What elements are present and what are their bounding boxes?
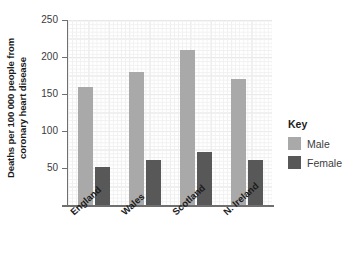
plot-area (68, 20, 272, 205)
bar-scotland-male (180, 50, 195, 205)
y-tick-label: 150 (32, 89, 58, 99)
legend-swatch-female-icon (288, 156, 301, 169)
y-tick-label-holder: 100 (30, 126, 58, 136)
y-axis-title: Deaths per 100 000 people from coronary … (0, 0, 34, 215)
x-axis-line (62, 205, 274, 207)
legend: Key MaleFemale (288, 118, 361, 175)
bar-wales-male (129, 72, 144, 205)
legend-item-male[interactable]: Male (288, 137, 361, 150)
legend-swatch-male-icon (288, 137, 301, 150)
bar-wales-female (146, 160, 161, 205)
legend-item-female[interactable]: Female (288, 156, 361, 169)
bar-chart: Deaths per 100 000 people from coronary … (0, 0, 361, 266)
y-tick-label-holder: 200 (30, 52, 58, 62)
y-tick-label-holder: 150 (30, 89, 58, 99)
y-tick-label: 250 (32, 15, 58, 25)
legend-title: Key (288, 118, 361, 130)
y-tick-label-holder: 250 (30, 15, 58, 25)
y-tick-label-holder: 50 (30, 163, 58, 173)
legend-label: Male (307, 138, 330, 150)
y-axis-title-line2: coronary heart disease (17, 37, 29, 177)
y-tick-label: 200 (32, 52, 58, 62)
y-axis-title-line1: Deaths per 100 000 people from (5, 37, 17, 177)
legend-label: Female (307, 157, 342, 169)
legend-rows: MaleFemale (288, 137, 361, 169)
y-tick-label: 50 (32, 163, 58, 173)
y-tick-label: 100 (32, 126, 58, 136)
bar-n-ireland-male (231, 79, 246, 205)
